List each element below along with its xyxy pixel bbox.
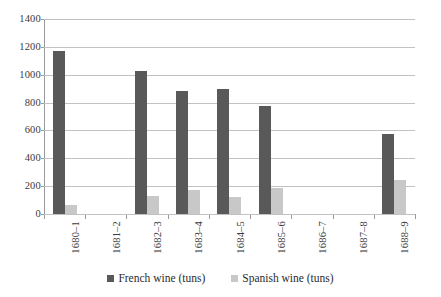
bar bbox=[229, 197, 241, 214]
bar bbox=[382, 134, 394, 214]
plot-area bbox=[44, 19, 415, 214]
x-axis-tick-mark bbox=[415, 215, 416, 219]
legend-item[interactable]: French wine (tuns) bbox=[107, 272, 205, 284]
bar-group bbox=[291, 19, 332, 214]
bar bbox=[271, 188, 283, 214]
chart-legend: French wine (tuns)Spanish wine (tuns) bbox=[0, 272, 441, 284]
bar bbox=[394, 180, 406, 214]
x-axis-tick-label: 1685–6 bbox=[276, 221, 287, 273]
x-axis-tick-label: 1682–3 bbox=[152, 221, 163, 273]
bar bbox=[188, 190, 200, 214]
y-axis-tick-label: 1200 bbox=[1, 42, 41, 53]
x-axis-tick-mark bbox=[291, 215, 292, 219]
x-axis-tick-mark bbox=[126, 215, 127, 219]
legend-item[interactable]: Spanish wine (tuns) bbox=[231, 272, 333, 284]
legend-swatch-icon bbox=[231, 275, 238, 282]
bar bbox=[135, 71, 147, 214]
y-axis-tick-label: 200 bbox=[1, 181, 41, 192]
bar-group bbox=[44, 19, 85, 214]
x-axis-tick-label: 1686–7 bbox=[317, 221, 328, 273]
bar-group bbox=[126, 19, 167, 214]
bar-group bbox=[209, 19, 250, 214]
bar-chart: 0200400600800100012001400 1680–11681–216… bbox=[0, 0, 441, 297]
bar-group bbox=[374, 19, 415, 214]
x-axis-tick-mark bbox=[44, 215, 45, 219]
x-axis-tick-label: 1684–5 bbox=[235, 221, 246, 273]
bar-group bbox=[333, 19, 374, 214]
y-axis-tick-label: 600 bbox=[1, 125, 41, 136]
bar-group bbox=[168, 19, 209, 214]
y-axis: 0200400600800100012001400 bbox=[0, 0, 41, 297]
bar bbox=[259, 106, 271, 214]
gridline bbox=[44, 214, 415, 215]
x-axis-tick-label: 1683–4 bbox=[193, 221, 204, 273]
x-axis-tick-mark bbox=[250, 215, 251, 219]
bar bbox=[147, 196, 159, 214]
x-axis-tick-label: 1688–9 bbox=[399, 221, 410, 273]
bar bbox=[176, 91, 188, 214]
x-axis-tick-label: 1681–2 bbox=[111, 221, 122, 273]
legend-swatch-icon bbox=[107, 275, 114, 282]
legend-label: Spanish wine (tuns) bbox=[242, 272, 333, 284]
y-axis-tick-label: 800 bbox=[1, 98, 41, 109]
bar bbox=[53, 51, 65, 214]
x-axis-tick-label: 1680–1 bbox=[70, 221, 81, 273]
bar-group bbox=[85, 19, 126, 214]
x-axis-tick-label: 1687–8 bbox=[358, 221, 369, 273]
bar bbox=[65, 205, 77, 214]
bar bbox=[217, 89, 229, 214]
y-axis-tick-label: 1400 bbox=[1, 14, 41, 25]
x-axis-tick-mark bbox=[168, 215, 169, 219]
x-axis-tick-mark bbox=[209, 215, 210, 219]
y-axis-tick-label: 1000 bbox=[1, 70, 41, 81]
bar-group bbox=[250, 19, 291, 214]
x-axis-tick-mark bbox=[374, 215, 375, 219]
legend-label: French wine (tuns) bbox=[118, 272, 205, 284]
y-axis-tick-label: 0 bbox=[1, 209, 41, 220]
y-axis-tick-label: 400 bbox=[1, 153, 41, 164]
x-axis-tick-mark bbox=[333, 215, 334, 219]
x-axis-tick-mark bbox=[85, 215, 86, 219]
